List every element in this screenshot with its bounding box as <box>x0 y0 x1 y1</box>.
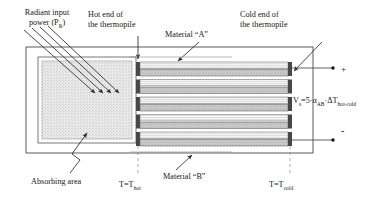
material-b-label: Material “B” <box>163 172 206 182</box>
material-a-leader <box>130 42 232 61</box>
cold-end-line2: the thermopile <box>240 20 288 29</box>
hot-end-line2: the thermopile <box>88 20 136 29</box>
material-b-leader <box>130 152 232 170</box>
hot-end-line1: Hot end of <box>88 10 123 19</box>
t-cold-subscript: cold <box>284 185 294 191</box>
t-cold-prefix: T=T <box>269 180 284 189</box>
absorbing-area-shape <box>38 57 136 143</box>
t-cold-label: T=Tcold <box>269 180 293 193</box>
cold-end-line1: Cold end of <box>240 10 279 19</box>
thermopile-diagram: Radiant input power (PR) Hot end of the … <box>0 0 382 201</box>
radiant-input-line1: Radiant input <box>25 8 69 17</box>
t-hot-subscript: hot <box>134 185 141 191</box>
terminal-negative-label: - <box>341 126 344 136</box>
formula-dt-subscript: hot-cold <box>338 101 357 107</box>
thermocouple-pair <box>136 97 292 111</box>
terminal-positive-label: + <box>341 65 346 75</box>
thermocouple-pair <box>136 62 292 76</box>
cold-end-leader <box>294 42 322 71</box>
cold-end-label: Cold end of the thermopile <box>240 10 288 29</box>
material-a-label: Material “A” <box>165 30 208 40</box>
radiant-input-paren: ) <box>62 18 65 27</box>
t-hot-label: T=Thot <box>119 180 141 193</box>
thermocouple-pair <box>136 115 292 129</box>
hot-end-label: Hot end of the thermopile <box>88 10 136 29</box>
radiant-input-label: Radiant input power (PR) <box>6 8 88 31</box>
output-voltage-formula: Vs=5·αAB·ΔThot-cold <box>293 96 356 109</box>
absorbing-area-label: Absorbing area <box>31 177 81 187</box>
thermocouple-stripes <box>136 62 292 146</box>
t-hot-prefix: T=T <box>119 180 134 189</box>
thermocouple-pair <box>136 132 292 146</box>
thermocouple-pair <box>136 80 292 94</box>
formula-mid: ·ΔT <box>325 96 338 105</box>
formula-alpha-subscript: AB <box>317 101 325 107</box>
radiant-input-line2: power (P <box>29 18 59 27</box>
formula-eq: =5·α <box>301 96 317 105</box>
